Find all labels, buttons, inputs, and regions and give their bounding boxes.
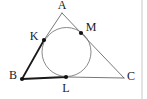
point-dot-L — [64, 75, 68, 79]
segment-LC — [66, 77, 124, 78]
point-dot-K — [42, 38, 46, 42]
label-M: M — [86, 20, 97, 34]
vertex-labels: ABCKLM — [9, 0, 135, 95]
label-A: A — [58, 0, 67, 12]
segment-AK — [44, 13, 62, 40]
point-dot-M — [79, 31, 83, 35]
label-C: C — [127, 69, 135, 83]
label-K: K — [30, 29, 39, 43]
diagram-canvas: ABCKLM — [0, 0, 147, 99]
inscribed-circle-layer — [42, 28, 91, 77]
segment-BL — [22, 77, 66, 79]
label-L: L — [62, 81, 69, 95]
point-dot-B — [20, 77, 24, 81]
inscribed-circle — [42, 28, 91, 77]
label-B: B — [9, 68, 17, 82]
segment-KB — [22, 40, 44, 79]
geometry-figure: ABCKLM — [0, 0, 147, 99]
triangle-sides — [22, 13, 124, 79]
